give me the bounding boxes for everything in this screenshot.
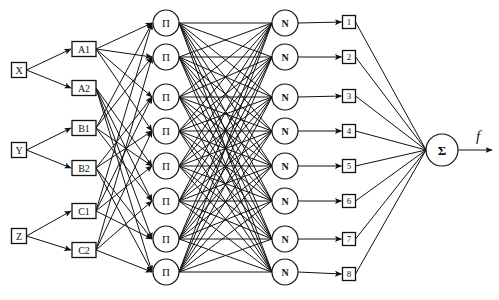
norm-node-5: N (272, 153, 298, 179)
product-node-4-label: Π (162, 125, 170, 137)
membership-node-c1: C1 (72, 204, 96, 219)
input-node-y: Y (12, 143, 27, 158)
norm-node-8: N (272, 259, 298, 285)
edge-rule-to-sum (356, 150, 427, 274)
rule-output-node-1-label: 1 (347, 17, 352, 27)
norm-node-2-label: N (281, 52, 289, 63)
edge-mf-to-product (96, 201, 152, 250)
product-node-3-label: Π (162, 91, 170, 103)
input-node-x-label: X (15, 65, 23, 76)
membership-node-c2-label: C2 (78, 245, 90, 256)
edge-mf-to-product (96, 128, 152, 166)
product-node-6: Π (153, 188, 179, 214)
edge-input-to-mf (27, 128, 72, 150)
rule-output-node-6: 6 (343, 195, 356, 208)
membership-node-c1-label: C1 (78, 206, 90, 217)
membership-node-a1-label: A1 (78, 44, 90, 55)
edges (27, 22, 493, 274)
edge-norm-to-rule (298, 96, 342, 97)
membership-node-a1: A1 (72, 42, 96, 57)
product-node-7: Π (153, 226, 179, 252)
product-node-1-label: Π (162, 17, 170, 29)
membership-node-b1: B1 (72, 121, 96, 136)
product-node-8-label: Π (162, 266, 170, 278)
membership-node-c2: C2 (72, 243, 96, 258)
norm-node-4: N (272, 118, 298, 144)
edge-mf-to-product (96, 88, 152, 239)
rule-output-node-1: 1 (343, 16, 356, 29)
edge-rule-to-sum (356, 22, 427, 150)
product-node-3: Π (153, 84, 179, 110)
rule-output-node-6-label: 6 (347, 196, 352, 206)
norm-node-2: N (272, 44, 298, 70)
norm-node-1: N (272, 10, 298, 36)
product-node-5: Π (153, 153, 179, 179)
rule-output-node-3-label: 3 (347, 91, 352, 101)
rule-output-node-8-label: 8 (347, 269, 352, 279)
edge-input-to-mf (27, 211, 72, 236)
edge-norm-to-rule (298, 22, 342, 23)
rule-output-node-7-label: 7 (347, 234, 352, 244)
norm-node-7-label: N (281, 234, 289, 245)
edge-mf-to-product (96, 97, 152, 168)
rule-output-node-5-label: 5 (347, 161, 352, 171)
edge-mf-to-product (96, 250, 152, 272)
edge-input-to-mf (27, 49, 72, 70)
edge-mf-to-product (96, 23, 152, 128)
rule-output-node-2: 2 (343, 51, 356, 64)
membership-node-a2: A2 (72, 81, 96, 96)
product-node-4: Π (153, 118, 179, 144)
output-label: f (476, 128, 482, 144)
rule-output-node-8: 8 (343, 268, 356, 281)
product-node-7-label: Π (162, 233, 170, 245)
anfis-diagram: XYZA1A2B1B2C1C2ΠΠΠΠΠΠΠΠNNNNNNNN12345678Σ… (0, 0, 499, 300)
rule-output-node-5: 5 (343, 160, 356, 173)
edge-input-to-mf (27, 150, 72, 168)
product-node-2-label: Π (162, 51, 170, 63)
rule-output-node-2-label: 2 (347, 52, 352, 62)
norm-node-6: N (272, 188, 298, 214)
edge-rule-to-sum (356, 131, 427, 150)
membership-node-a2-label: A2 (78, 83, 90, 94)
sum-node: Σ (426, 134, 458, 166)
sum-node-label: Σ (438, 143, 447, 158)
norm-node-1-label: N (281, 18, 289, 29)
membership-node-b2-label: B2 (78, 163, 90, 174)
product-node-2: Π (153, 44, 179, 70)
edge-norm-to-rule (298, 272, 342, 274)
rule-output-node-4-label: 4 (347, 126, 352, 136)
diagram-canvas: XYZA1A2B1B2C1C2ΠΠΠΠΠΠΠΠNNNNNNNN12345678Σ… (0, 0, 499, 300)
edge-input-to-mf (27, 70, 72, 88)
input-node-z: Z (12, 229, 27, 244)
product-node-6-label: Π (162, 195, 170, 207)
norm-node-3: N (272, 84, 298, 110)
product-node-1: Π (153, 10, 179, 36)
norm-node-7: N (272, 226, 298, 252)
norm-node-6-label: N (281, 196, 289, 207)
rule-output-node-4: 4 (343, 125, 356, 138)
input-node-z-label: Z (16, 231, 22, 242)
norm-node-8-label: N (281, 267, 289, 278)
input-node-x: X (12, 63, 27, 78)
norm-node-3-label: N (281, 92, 289, 103)
norm-node-4-label: N (281, 126, 289, 137)
membership-node-b2: B2 (72, 161, 96, 176)
membership-node-b1-label: B1 (78, 123, 90, 134)
input-node-y-label: Y (15, 145, 22, 156)
norm-node-5-label: N (281, 161, 289, 172)
rule-output-node-3: 3 (343, 90, 356, 103)
product-node-5-label: Π (162, 160, 170, 172)
edge-mf-to-product (96, 23, 152, 49)
edge-input-to-mf (27, 236, 72, 250)
rule-output-node-7: 7 (343, 233, 356, 246)
product-node-8: Π (153, 259, 179, 285)
